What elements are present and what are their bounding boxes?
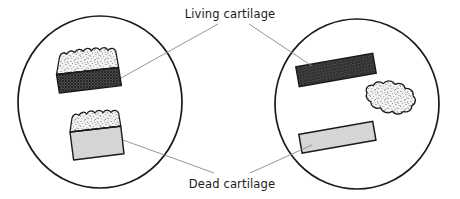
diagram-canvas: Living cartilage Dead cartilage (0, 0, 460, 199)
cartilage-diagram: Living cartilage Dead cartilage (0, 0, 460, 199)
left-panel (18, 16, 182, 188)
left-panel-circle (18, 16, 182, 188)
left-lower-specimen (70, 110, 124, 160)
dead-cartilage-label: Dead cartilage (189, 177, 275, 191)
left-upper-specimen (57, 48, 122, 93)
right-panel (275, 19, 439, 189)
living-cartilage-label: Living cartilage (185, 7, 276, 21)
